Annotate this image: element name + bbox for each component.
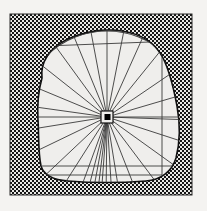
figure-container: Radial survey plan of an irregular excav… (0, 0, 207, 211)
survey-station-hub (101, 111, 113, 123)
plan-diagram: Radial survey plan of an irregular excav… (0, 0, 207, 211)
excavation-outline (38, 30, 179, 182)
hub-center-marker (105, 114, 111, 120)
